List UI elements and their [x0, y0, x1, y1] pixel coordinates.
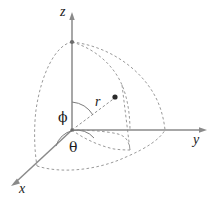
x-axis-line: [17, 130, 72, 181]
equator-inner-top-arc: [72, 130, 130, 150]
y-axis-arrowhead: [199, 127, 207, 132]
z-axis-label: z: [60, 5, 65, 19]
equator-inner-arc: [72, 130, 130, 150]
meridian-through-point-arc: [72, 42, 130, 131]
z-axis-arrowhead: [69, 12, 74, 20]
origin-dot: [70, 128, 73, 131]
point-p-dot: [112, 94, 117, 99]
y-axis-label: y: [193, 133, 199, 147]
sphere-pole-dot: [70, 40, 74, 44]
radius-vector-line: [72, 97, 116, 130]
phi-angle-arc: [72, 102, 93, 115]
projection-drop-line: [122, 85, 130, 150]
meridian-yz-outer-arc: [72, 42, 165, 130]
radius-label: r: [95, 95, 100, 109]
diagram-canvas: [0, 0, 212, 205]
axes-group: [11, 12, 207, 186]
x-axis-label: x: [19, 182, 25, 196]
equator-outer-arc: [37, 130, 165, 170]
theta-angle-label: θ: [69, 140, 77, 154]
phi-angle-label: ϕ: [58, 110, 68, 124]
spherical-coordinates-figure: z y x r ϕ θ: [0, 0, 212, 205]
